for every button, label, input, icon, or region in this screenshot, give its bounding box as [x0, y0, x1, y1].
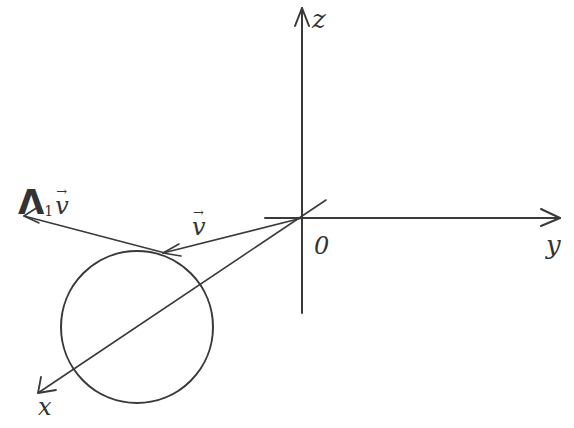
x-axis — [38, 200, 326, 393]
diagram-canvas: z y x 0 → v Λ1 → v — [0, 0, 574, 428]
y-axis-label: y — [546, 232, 561, 258]
vector-v-label: → v — [192, 215, 206, 239]
lambda-symbol: Λ — [18, 182, 44, 222]
origin-label: 0 — [314, 234, 329, 258]
vector-lambda-v-label: Λ1 → v — [18, 185, 69, 219]
lambda-subscript: 1 — [44, 203, 53, 219]
vector-v — [163, 218, 302, 256]
diagram-svg — [0, 0, 574, 428]
z-axis-label: z — [312, 6, 326, 32]
vector-arrow-icon: → — [193, 206, 204, 219]
vector-arrow-icon: → — [56, 185, 67, 198]
z-axis — [295, 8, 309, 313]
x-axis-label: x — [38, 395, 52, 419]
